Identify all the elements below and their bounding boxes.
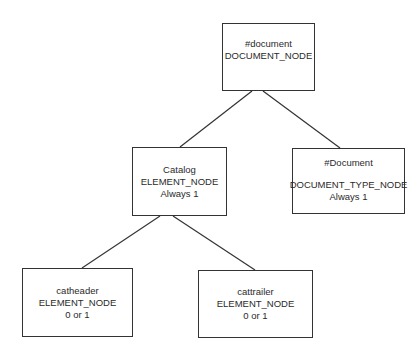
node-cardinality: Always 1 — [141, 188, 219, 200]
node-cardinality: 0 or 1 — [217, 310, 295, 322]
node-type: ELEMENT_NODE — [141, 176, 219, 188]
node-name: Catalog — [141, 164, 219, 176]
node-cattrailer: cattrailer ELEMENT_NODE 0 or 1 — [198, 270, 313, 338]
node-type: DOCUMENT_NODE — [225, 50, 313, 62]
node-cardinality: 0 or 1 — [39, 309, 117, 321]
node-name: catheader — [39, 285, 117, 297]
node-type: ELEMENT_NODE — [39, 297, 117, 309]
node-type: ELEMENT_NODE — [217, 298, 295, 310]
edge-catalog-catheader — [82, 216, 160, 268]
node-name: cattrailer — [217, 286, 295, 298]
edge-document-doctype — [263, 91, 340, 148]
node-catheader: catheader ELEMENT_NODE 0 or 1 — [22, 268, 133, 337]
node-document: #document DOCUMENT_NODE — [222, 23, 315, 91]
node-document-type: #Document DOCUMENT_TYPE_NODE Always 1 — [292, 148, 405, 214]
node-type: DOCUMENT_TYPE_NODE — [290, 179, 408, 191]
edge-catalog-cattrailer — [173, 216, 255, 270]
node-name: #Document — [290, 157, 408, 169]
node-name: #document — [225, 38, 313, 50]
node-catalog: Catalog ELEMENT_NODE Always 1 — [132, 147, 227, 216]
node-cardinality: Always 1 — [290, 191, 408, 203]
edge-document-catalog — [180, 91, 252, 147]
